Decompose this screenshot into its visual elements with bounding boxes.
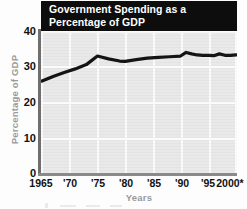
scan-artifact-3 (86, 205, 100, 207)
y-tick-label-40: 40 (2, 26, 36, 37)
chart-title-line-1: Government Spending as a (49, 3, 237, 16)
x-tick-label-2000: 2000* (212, 177, 247, 189)
scan-artifact-2 (60, 205, 76, 207)
y-axis-line (38, 29, 41, 176)
data-line-series (41, 31, 237, 174)
x-axis-line (38, 173, 237, 176)
chart-figure: Government Spending as a Percentage of G… (0, 0, 247, 209)
plot-area (41, 31, 237, 174)
x-tick-label-1980: '80 (111, 177, 141, 189)
x-tick-label-1970: '70 (55, 177, 85, 189)
scan-artifact-4 (110, 205, 122, 207)
chart-title-banner: Government Spending as a Percentage of G… (41, 1, 237, 31)
chart-title-line-2: Percentage of GDP (49, 16, 237, 29)
x-tick-label-1975: '75 (83, 177, 113, 189)
x-tick-label-1985: '85 (139, 177, 169, 189)
scan-artifact-1 (45, 203, 48, 208)
y-axis-title: Percentage of GDP (9, 40, 20, 160)
x-axis-title: Years (41, 192, 237, 203)
